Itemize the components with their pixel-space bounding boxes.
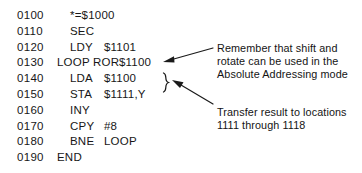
code-operand: $1100: [104, 72, 136, 84]
code-row: 0190END: [0, 151, 200, 169]
annotation-transfer-line-2: 1111 through 1118: [217, 119, 347, 132]
code-listing: 0100*=$10000110SEC0120LDY$11010130LOOPRO…: [0, 0, 200, 173]
code-mnemonic: *=$1000: [70, 9, 115, 21]
code-line-number: 0180: [17, 135, 44, 147]
code-line-number: 0140: [17, 72, 44, 84]
code-line-number: 0160: [17, 104, 44, 116]
code-line-number: 0120: [17, 41, 44, 53]
code-line-number: 0100: [17, 9, 44, 21]
code-mnemonic: CPY: [70, 120, 94, 132]
annotation-shift-rotate-line-1: Remember that shift and: [217, 42, 348, 55]
code-operand: $1101: [104, 41, 136, 53]
code-operand: LOOP: [104, 135, 137, 147]
code-line-number: 0190: [17, 151, 44, 163]
code-line-number: 0130: [17, 56, 44, 68]
code-mnemonic: LDA: [70, 72, 93, 84]
code-mnemonic: END: [57, 151, 82, 163]
annotation-transfer-line-1: Transfer result to locations: [217, 106, 347, 119]
code-mnemonic: SEC: [70, 25, 94, 37]
code-line-number: 0170: [17, 120, 44, 132]
code-line-number: 0150: [17, 88, 44, 100]
code-mnemonic: INY: [70, 104, 90, 116]
assembly-listing-page: 0100*=$10000110SEC0120LDY$11010130LOOPRO…: [0, 0, 362, 173]
code-mnemonic: ROR: [93, 56, 119, 68]
code-operand: #8: [104, 120, 117, 132]
code-label: LOOP: [57, 56, 90, 68]
annotation-shift-rotate-line-3: Absolute Addressing mode: [217, 68, 348, 81]
code-operand: $1100: [119, 56, 151, 68]
code-operand: $1111,Y: [104, 88, 146, 100]
annotation-shift-rotate-line-2: rotate can be used in the: [217, 55, 348, 68]
code-mnemonic: LDY: [70, 41, 93, 53]
code-line-number: 0110: [17, 25, 43, 37]
code-mnemonic: BNE: [70, 135, 94, 147]
code-mnemonic: STA: [70, 88, 92, 100]
annotation-shift-rotate: Remember that shift and rotate can be us…: [217, 42, 348, 82]
annotation-transfer: Transfer result to locations 1111 throug…: [217, 106, 347, 132]
